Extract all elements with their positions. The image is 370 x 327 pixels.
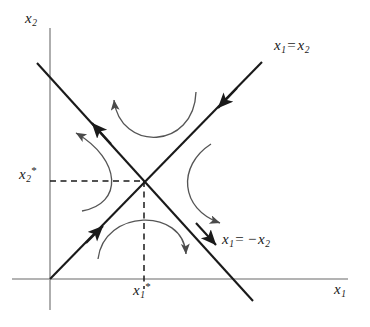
equals-sign: =	[286, 37, 298, 53]
locus-falling-group	[37, 63, 253, 301]
locus-falling-line	[37, 63, 253, 301]
flow-arc-west	[76, 133, 112, 211]
locus-rising-label: x1=x2	[274, 38, 309, 53]
locus-rising-arrow-upper	[218, 88, 237, 108]
flow-arcs-group	[76, 92, 220, 259]
locus-falling-arrow-upper	[92, 123, 111, 144]
x1-steady-state-label: x1*	[133, 283, 151, 298]
phase-diagram-figure: x2 x1 x1=x2 x1= −x2 x2* x1*	[0, 0, 370, 327]
phase-diagram-canvas	[0, 0, 370, 327]
locus-rising-arrow-lower	[86, 226, 103, 243]
x2-axis-label: x2	[25, 11, 37, 26]
flow-arc-east	[188, 144, 220, 223]
locus-falling-label: x1= −x2	[222, 232, 270, 247]
x1-axis-label: x1	[334, 282, 346, 297]
x2-steady-state-label: x2*	[19, 167, 37, 182]
equals-minus-sign: = −	[234, 231, 258, 247]
flow-arc-south	[98, 220, 186, 259]
flow-arc-north	[114, 92, 196, 137]
